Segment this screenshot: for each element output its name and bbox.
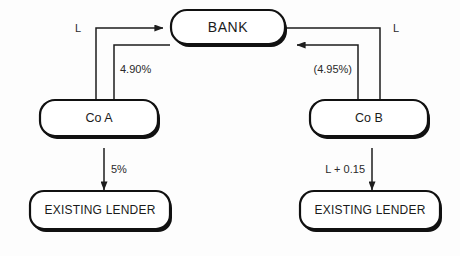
edge-label-right-floating: L <box>393 22 399 34</box>
co-a-label: Co A <box>85 111 113 125</box>
node-bank[interactable]: BANK <box>171 10 287 47</box>
edge-label-left-existing: 5% <box>111 163 127 175</box>
lender-b-label: EXISTING LENDER <box>314 203 425 217</box>
node-lender-a[interactable]: EXISTING LENDER <box>30 191 172 232</box>
bank-label: BANK <box>208 19 249 35</box>
edge-label-right-existing: L + 0.15 <box>325 163 365 175</box>
node-lender-b[interactable]: EXISTING LENDER <box>300 191 442 232</box>
lender-a-label: EXISTING LENDER <box>44 203 155 217</box>
node-co-b[interactable]: Co B <box>310 100 430 139</box>
node-co-a[interactable]: Co A <box>40 100 160 139</box>
diagram-svg: BANK Co A Co B EXISTING LENDER EXISTING … <box>0 0 460 256</box>
co-b-label: Co B <box>355 111 383 125</box>
edge-label-right-fixed: (4.95%) <box>313 63 352 75</box>
edge-label-left-fixed: 4.90% <box>120 63 151 75</box>
edge-label-left-floating: L <box>75 22 81 34</box>
swap-diagram-canvas: BANK Co A Co B EXISTING LENDER EXISTING … <box>0 0 460 256</box>
